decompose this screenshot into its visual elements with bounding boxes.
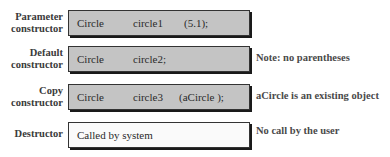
parameter-constructor-row: Parameter constructor Circle circle1 (5.… xyxy=(0,10,390,36)
destructor-row: Destructor Called by system No call by t… xyxy=(0,122,390,148)
note-text: No call by the user xyxy=(256,119,339,143)
label-line: constructor xyxy=(0,23,63,35)
name-text: circle3 xyxy=(133,85,163,109)
row-label: Default constructor xyxy=(0,47,63,71)
code-box: Circle circle3 (aCircle ); xyxy=(68,84,250,110)
default-constructor-row: Default constructor Circle circle2; Note… xyxy=(0,46,390,72)
label-line: Copy xyxy=(0,85,63,97)
label-line: Default xyxy=(0,47,63,59)
label-line: Destructor xyxy=(0,128,63,140)
code-box: Circle circle2; xyxy=(68,46,250,72)
description-text: Called by system xyxy=(77,123,153,147)
label-line: Parameter xyxy=(0,11,63,23)
note-text: Note: no parentheses xyxy=(256,46,350,70)
row-label: Copy constructor xyxy=(0,85,63,109)
args-text: (5.1); xyxy=(184,11,208,35)
name-text: circle1 xyxy=(133,11,163,35)
description-box: Called by system xyxy=(68,122,250,148)
type-text: Circle xyxy=(77,85,104,109)
copy-constructor-row: Copy constructor Circle circle3 (aCircle… xyxy=(0,84,390,110)
label-line: constructor xyxy=(0,59,63,71)
type-text: Circle xyxy=(77,11,104,35)
row-label: Parameter constructor xyxy=(0,11,63,35)
name-text: circle2; xyxy=(133,47,166,71)
type-text: Circle xyxy=(77,47,104,71)
row-label: Destructor xyxy=(0,128,63,140)
label-line: constructor xyxy=(0,97,63,109)
code-box: Circle circle1 (5.1); xyxy=(68,10,250,36)
args-text: (aCircle ); xyxy=(179,85,224,109)
note-text: aCircle is an existing object xyxy=(256,84,379,108)
